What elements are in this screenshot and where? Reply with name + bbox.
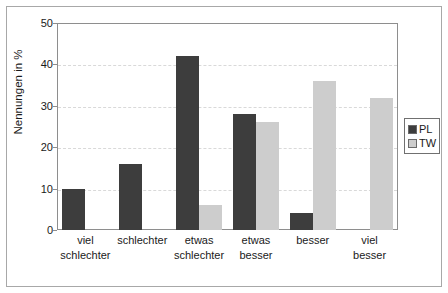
bar-tw-viel-besser[interactable] (370, 98, 393, 230)
legend-item-pl[interactable]: PL (408, 122, 436, 136)
x-label-line2: schlechter (25, 248, 145, 263)
x-label-line2: besser (196, 248, 316, 263)
bar-pl-schlechter[interactable] (119, 164, 142, 230)
legend-label-tw: TW (419, 138, 436, 149)
bars-layer (57, 23, 398, 230)
legend-label-pl: PL (419, 124, 432, 135)
y-axis-tick-labels: 0 10 20 30 40 50 (5, 23, 53, 230)
bar-pl-etwas-schlechter[interactable] (176, 56, 199, 230)
bar-pl-besser[interactable] (290, 213, 313, 230)
legend-swatch-icon-pl (408, 125, 417, 134)
x-label-line1: viel (361, 234, 378, 246)
legend-swatch-icon-tw (408, 139, 417, 148)
bar-tw-etwas-schlechter[interactable] (199, 205, 222, 230)
bar-pl-viel-schlechter[interactable] (62, 189, 85, 230)
y-tick-label-10: 10 (9, 183, 53, 194)
x-label-viel-besser: viel besser (310, 233, 430, 262)
chart-figure: Nennungen in % 0 10 20 30 40 50 (0, 0, 448, 293)
legend-item-tw[interactable]: TW (408, 136, 436, 150)
bar-tw-besser[interactable] (313, 81, 336, 230)
y-tick-label-20: 20 (9, 142, 53, 153)
x-label-line2: besser (310, 248, 430, 263)
y-tick-label-30: 30 (9, 100, 53, 111)
y-tick-mark-0 (53, 230, 57, 231)
y-tick-label-40: 40 (9, 59, 53, 70)
bar-tw-etwas-besser[interactable] (256, 122, 279, 230)
y-tick-label-50: 50 (9, 18, 53, 29)
chart-legend: PL TW (404, 118, 440, 154)
bar-pl-etwas-besser[interactable] (233, 114, 256, 230)
x-axis-tick-labels: viel schlechter schlechter etwas schlech… (57, 233, 398, 275)
